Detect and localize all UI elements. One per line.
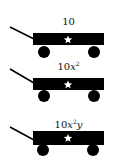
wagon-handle — [10, 27, 34, 39]
wagon-graphic — [0, 12, 115, 62]
wheel-right — [87, 144, 99, 156]
wagon-2: 10x2 — [0, 57, 115, 107]
wagon-graphic — [0, 111, 115, 163]
wheel-left — [37, 144, 49, 156]
wagon-3: 10x2y — [0, 111, 115, 161]
wheel-left — [38, 90, 50, 102]
wagon-graphic — [0, 57, 115, 107]
wheel-right — [88, 90, 100, 102]
wagon-1: 10 — [0, 12, 115, 62]
wagon-handle — [10, 69, 34, 83]
wagon-handle — [10, 127, 34, 140]
